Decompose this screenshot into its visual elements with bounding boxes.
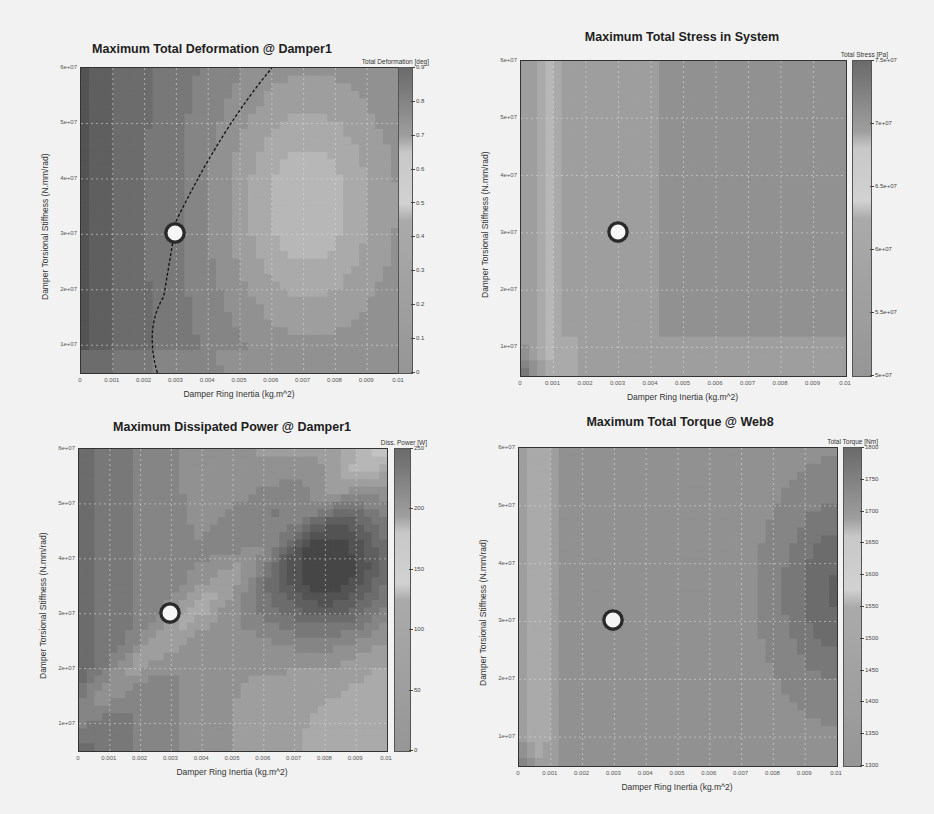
colorbar-tick-label: 1600 (860, 571, 878, 577)
x-tick-label: 0.007 (733, 770, 748, 776)
x-tick-label: 0.007 (295, 377, 310, 383)
x-tick-label: 0 (76, 755, 79, 761)
y-axis-label: Damper Torsional Stiffness (N.mm/rad) (38, 532, 48, 679)
colorbar-tick-label: 5e+07 (870, 372, 892, 378)
x-tick-label: 0.002 (574, 770, 589, 776)
colorbar-tick-label: 1500 (860, 635, 878, 641)
y-tick-label: 6e+07 (60, 64, 77, 70)
colorbar-tick-label: 0.5 (411, 200, 424, 206)
y-tick-label: 1e+07 (60, 341, 77, 347)
x-tick-label: 0.001 (542, 770, 557, 776)
colorbar-tick-label: 6.5e+07 (870, 183, 897, 189)
x-tick-label: 0.005 (224, 755, 239, 761)
y-tick-label: 5e+07 (498, 502, 515, 508)
x-tick-label: 0.008 (765, 770, 780, 776)
x-axis-label: Damper Ring Inertia (kg.m^2) (176, 767, 287, 777)
colorbar-tick-label: 1300 (860, 762, 878, 768)
y-tick-label: 2e+07 (498, 675, 515, 681)
design-point-marker (160, 602, 181, 623)
x-tick-label: 0.001 (104, 377, 119, 383)
colorbar-tick-label: 1800 (860, 444, 878, 450)
y-tick-label: 3e+07 (500, 229, 517, 235)
x-tick-label: 0.002 (577, 380, 592, 386)
x-tick-label: 0.008 (317, 755, 332, 761)
colorbar-tick-label: 7e+07 (870, 120, 892, 126)
y-tick-label: 6e+07 (498, 444, 515, 450)
colorbar (394, 448, 411, 752)
y-tick-label: 4e+07 (500, 172, 517, 178)
y-tick-label: 2e+07 (58, 665, 75, 671)
y-tick-label: 4e+07 (60, 175, 77, 181)
y-axis-label: Damper Torsional Stiffness (N.mm/rad) (478, 539, 488, 686)
contour-plot-area (78, 448, 388, 752)
colorbar-tick-label: 200 (409, 505, 424, 511)
y-tick-label: 3e+07 (58, 610, 75, 616)
colorbar-tick-label: 1550 (860, 603, 878, 609)
colorbar (852, 60, 872, 377)
x-tick-label: 0.006 (255, 755, 270, 761)
contour-plot-area (518, 447, 838, 767)
x-tick-label: 0 (78, 377, 81, 383)
colorbar-tick-label: 6e+07 (870, 246, 892, 252)
colorbar-tick-label: 150 (409, 566, 424, 572)
colorbar (398, 67, 413, 374)
y-tick-label: 6e+07 (58, 445, 75, 451)
colorbar-tick-label: 0.6 (411, 166, 424, 172)
colorbar-tick-label: 1400 (860, 698, 878, 704)
x-tick-label: 0.009 (797, 770, 812, 776)
colorbar-tick-label: 0.3 (411, 267, 424, 273)
x-tick-label: 0.008 (327, 377, 342, 383)
x-tick-label: 0.003 (168, 377, 183, 383)
chart-title: Maximum Total Torque @ Web8 (586, 415, 773, 429)
colorbar-tick-label: 0.9 (411, 64, 424, 70)
y-tick-label: 1e+07 (498, 733, 515, 739)
contour-plot-area (80, 67, 400, 374)
y-tick-label: 1e+07 (58, 720, 75, 726)
colorbar-tick-label: 100 (409, 626, 424, 632)
y-tick-label: 4e+07 (58, 555, 75, 561)
y-tick-label: 5e+07 (58, 500, 75, 506)
colorbar-tick-label: 0.4 (411, 233, 424, 239)
colorbar-tick-label: 1350 (860, 730, 878, 736)
chart-title: Maximum Dissipated Power @ Damper1 (113, 420, 351, 434)
x-tick-label: 0.006 (707, 380, 722, 386)
x-tick-label: 0.004 (642, 380, 657, 386)
x-tick-label: 0.01 (830, 770, 842, 776)
chart-title: Maximum Total Deformation @ Damper1 (92, 42, 332, 56)
x-tick-label: 0.004 (638, 770, 653, 776)
colorbar-tick-label: 0.1 (411, 335, 424, 341)
x-tick-label: 0.01 (380, 755, 392, 761)
x-tick-label: 0.001 (545, 380, 560, 386)
colorbar-tick-label: 1650 (860, 539, 878, 545)
colorbar-tick-label: 1750 (860, 476, 878, 482)
y-tick-label: 5e+07 (500, 114, 517, 120)
x-tick-label: 0.003 (610, 380, 625, 386)
x-tick-label: 0.006 (701, 770, 716, 776)
x-tick-label: 0.002 (132, 755, 147, 761)
colorbar-tick-label: 0 (411, 369, 419, 375)
contour-plot-area (520, 60, 847, 377)
y-tick-label: 5e+07 (60, 119, 77, 125)
x-tick-label: 0.009 (348, 755, 363, 761)
y-tick-label: 2e+07 (500, 286, 517, 292)
y-tick-label: 4e+07 (498, 560, 515, 566)
x-tick-label: 0.005 (675, 380, 690, 386)
y-tick-label: 1e+07 (500, 343, 517, 349)
x-tick-label: 0.005 (231, 377, 246, 383)
x-axis-label: Damper Ring Inertia (kg.m^2) (183, 389, 294, 399)
x-tick-label: 0.01 (839, 380, 851, 386)
colorbar-tick-label: 0.8 (411, 98, 424, 104)
colorbar-tick-label: 0.2 (411, 301, 424, 307)
x-tick-label: 0 (518, 380, 521, 386)
x-tick-label: 0.001 (101, 755, 116, 761)
y-tick-label: 3e+07 (498, 617, 515, 623)
x-tick-label: 0.003 (163, 755, 178, 761)
x-tick-label: 0.005 (669, 770, 684, 776)
x-axis-label: Damper Ring Inertia (kg.m^2) (627, 392, 738, 402)
chart-title: Maximum Total Stress in System (585, 30, 779, 44)
x-tick-label: 0.006 (263, 377, 278, 383)
x-axis-label: Damper Ring Inertia (kg.m^2) (621, 782, 732, 792)
x-tick-label: 0.004 (194, 755, 209, 761)
colorbar-tick-label: 1700 (860, 508, 878, 514)
design-point-marker (607, 221, 628, 242)
